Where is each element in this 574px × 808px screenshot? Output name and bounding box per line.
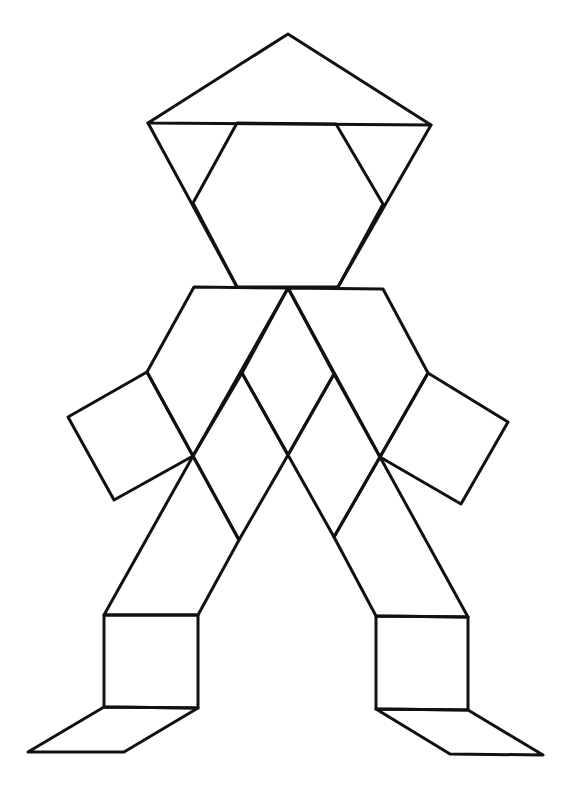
right-foot-rhombus: [376, 709, 543, 755]
torso-left-trapezoid: [147, 287, 288, 456]
torso-center-rhombus: [242, 288, 334, 455]
right-shin-square: [376, 616, 468, 710]
torso-right-trapezoid: [288, 288, 428, 457]
left-hand-square: [68, 372, 193, 500]
torso-right-rhombus: [288, 374, 380, 537]
left-shin-square: [104, 615, 198, 708]
right-leg-rhombus: [334, 457, 468, 617]
left-foot-rhombus: [28, 707, 198, 752]
head-hexagon: [193, 123, 383, 287]
head-top-triangle: [148, 34, 431, 125]
pattern-block-figure: [0, 0, 574, 808]
torso-left-rhombus: [193, 373, 288, 540]
right-hand-square: [380, 373, 508, 504]
left-leg-rhombus: [104, 456, 239, 615]
